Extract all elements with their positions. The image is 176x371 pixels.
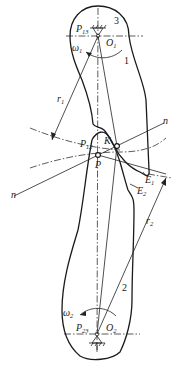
label-p12: P12: [79, 138, 93, 150]
pivot-o2: [89, 332, 105, 350]
label-o2: O2: [106, 322, 117, 334]
label-n-left: n: [11, 189, 16, 200]
line-o2-k: [97, 146, 117, 334]
label-link1: 1: [124, 55, 129, 66]
label-e1: E1: [144, 174, 154, 186]
label-omega2: ω2: [63, 307, 74, 319]
label-p: P: [94, 159, 101, 170]
label-k: K: [103, 135, 112, 146]
label-r1: r1: [57, 93, 64, 105]
label-link3: 3: [114, 15, 119, 26]
center-line: [97, 8, 98, 352]
omega1-arrowhead: [86, 52, 92, 57]
r2-tangent-dash: [148, 174, 172, 178]
label-o1: O1: [106, 37, 116, 49]
point-p: [96, 153, 101, 158]
label-r2: r2: [146, 215, 154, 227]
cam-diagram: P13 3 ω1 O1 1 r1 n n P12 K P E1 E2 r2 2 …: [0, 0, 176, 371]
line-p-e: [98, 155, 166, 174]
label-omega1: ω1: [72, 42, 82, 54]
label-link2: 2: [122, 282, 127, 293]
label-n-right: n: [163, 115, 168, 126]
r2-arrowhead: [161, 178, 166, 186]
point-k: [115, 144, 120, 149]
label-p13: P13: [75, 23, 89, 35]
label-p23: P23: [75, 322, 89, 334]
line-o1-k: [98, 36, 117, 146]
label-e2: E2: [136, 185, 147, 197]
omega2-arrowhead: [80, 311, 86, 316]
